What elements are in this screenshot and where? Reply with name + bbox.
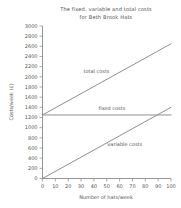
y-tick-label: 3000 xyxy=(25,23,38,29)
x-tick-label: 10 xyxy=(52,183,58,189)
y-tick-label: 1600 xyxy=(25,94,38,100)
y-tick-label: 1400 xyxy=(25,104,38,110)
chart-container: The fixed, variable and total costs for … xyxy=(0,0,181,208)
chart-title-line-2: for Beth Brook Hats xyxy=(80,14,133,20)
series-label-fixed-costs: fixed costs xyxy=(98,105,125,111)
x-tick-label: 80 xyxy=(142,183,148,189)
y-tick-label: 1200 xyxy=(25,114,38,120)
x-tick-label: 60 xyxy=(116,183,122,189)
y-tick-label: 2200 xyxy=(25,63,38,69)
y-tick-label: 2400 xyxy=(25,53,38,59)
y-tick-label: 1800 xyxy=(25,84,38,90)
chart-title: The fixed, variable and total costs for … xyxy=(59,6,152,20)
x-tick-label: 0 xyxy=(41,183,44,189)
data-series-group xyxy=(43,44,172,179)
x-tick-label: 100 xyxy=(166,183,176,189)
series-label-variable-costs: variable costs xyxy=(107,141,142,147)
x-axis-ticks: 0102030405060708090100 xyxy=(41,179,176,190)
y-tick-label: 800 xyxy=(28,135,38,141)
series-labels-group: total costsfixed costsvariable costs xyxy=(83,68,142,147)
x-tick-label: 90 xyxy=(155,183,161,189)
y-axis-ticks: 0200400600800100012001400160018002000220… xyxy=(25,23,43,182)
y-tick-label: 2000 xyxy=(25,74,38,80)
y-tick-label: 0 xyxy=(34,175,37,181)
y-tick-label: 400 xyxy=(28,155,38,161)
y-tick-label: 600 xyxy=(28,145,38,151)
series-label-total-costs: total costs xyxy=(83,68,109,74)
y-tick-label: 2800 xyxy=(25,33,38,39)
x-tick-label: 50 xyxy=(104,183,110,189)
y-tick-label: 1000 xyxy=(25,124,38,130)
chart-title-line-1: The fixed, variable and total costs xyxy=(59,6,152,12)
cost-chart-svg: The fixed, variable and total costs for … xyxy=(0,0,181,208)
x-axis-title: Number of hats/week xyxy=(79,194,133,200)
y-tick-label: 200 xyxy=(28,165,38,171)
y-tick-label: 2600 xyxy=(25,43,38,49)
x-tick-label: 70 xyxy=(129,183,135,189)
x-tick-label: 30 xyxy=(78,183,84,189)
x-tick-label: 40 xyxy=(91,183,97,189)
y-axis-title: Costs/week (£) xyxy=(8,83,14,120)
x-tick-label: 20 xyxy=(65,183,71,189)
